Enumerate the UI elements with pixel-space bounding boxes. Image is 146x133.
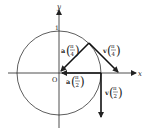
svg-text:): ) [75, 44, 80, 58]
x-axis-label: x [138, 70, 142, 78]
svg-text:π: π [70, 43, 74, 49]
svg-text:): ) [116, 44, 121, 58]
y-axis-label: y [56, 3, 62, 11]
label-a-pi-4: a ( π 4 ) [61, 43, 80, 58]
label-a-pi-2: a ( π 2 ) [66, 74, 85, 89]
y-tick-label: 1 [55, 24, 59, 31]
diagram-canvas: x y O 1 a ( π 4 ) v ( π 4 ) a ( π 2 ) v … [0, 0, 146, 133]
svg-text:4: 4 [112, 51, 116, 57]
origin-label: O [52, 76, 57, 84]
svg-text:): ) [80, 75, 85, 89]
svg-text:4: 4 [71, 51, 75, 57]
svg-text:2: 2 [76, 82, 80, 88]
svg-text:π: π [111, 43, 115, 49]
label-v-pi-2: v ( π 2 ) [104, 85, 123, 100]
svg-text:π: π [75, 74, 79, 80]
svg-text:2: 2 [114, 93, 118, 99]
svg-text:): ) [118, 86, 123, 100]
svg-text:π: π [113, 85, 117, 91]
label-v-pi-4: v ( π 4 ) [102, 43, 121, 58]
